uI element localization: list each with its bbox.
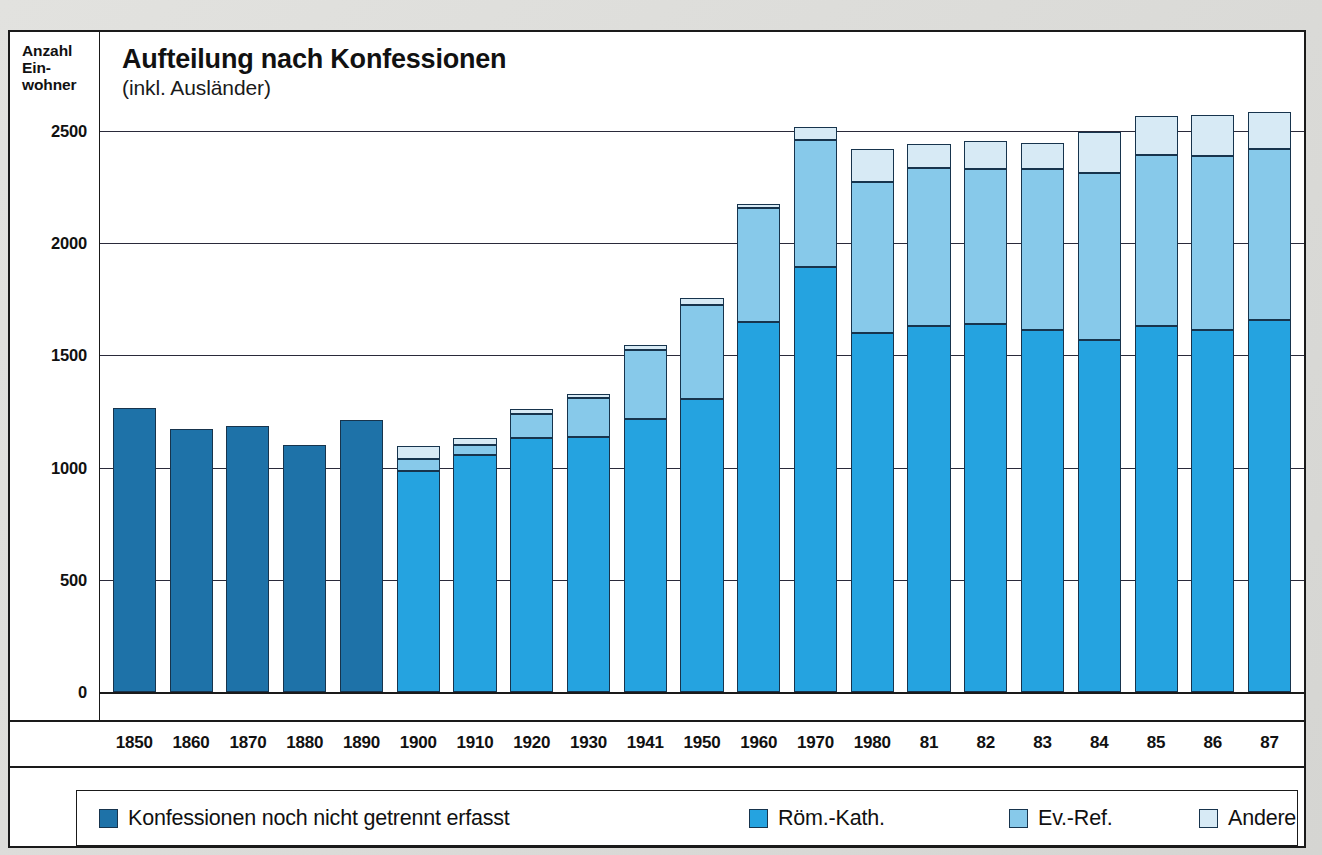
bar-84[interactable]: [1078, 132, 1121, 692]
bar-1870[interactable]: [226, 426, 269, 692]
x-tick-1850: 1850: [106, 733, 163, 753]
bar-segment-kath-86[interactable]: [1191, 330, 1234, 692]
bar-segment-andere-1920[interactable]: [510, 409, 553, 413]
x-tick-81: 81: [901, 733, 958, 753]
bar-segment-andere-1950[interactable]: [680, 298, 723, 305]
chart-title: Aufteilung nach Konfessionen: [122, 44, 1304, 75]
bar-1970[interactable]: [794, 127, 837, 692]
bar-segment-ev-81[interactable]: [907, 168, 950, 326]
bar-85[interactable]: [1135, 116, 1178, 692]
legend-swatch-ev-icon: [1009, 809, 1028, 828]
bar-segment-ev-1941[interactable]: [624, 350, 667, 420]
bar-segment-ev-1900[interactable]: [397, 459, 440, 471]
bar-segment-kath-1980[interactable]: [851, 333, 894, 692]
bar-segment-andere-1910[interactable]: [453, 438, 496, 445]
bar-segment-notsplit-1890[interactable]: [340, 420, 383, 692]
bar-segment-kath-82[interactable]: [964, 324, 1007, 692]
bar-segment-notsplit-1850[interactable]: [113, 408, 156, 692]
x-tick-1960: 1960: [730, 733, 787, 753]
x-tick-83: 83: [1014, 733, 1071, 753]
bar-segment-ev-1930[interactable]: [567, 398, 610, 437]
bar-segment-andere-81[interactable]: [907, 144, 950, 168]
bar-segment-kath-1910[interactable]: [453, 455, 496, 692]
bar-segment-ev-1950[interactable]: [680, 305, 723, 399]
bar-segment-andere-86[interactable]: [1191, 115, 1234, 155]
bar-segment-andere-87[interactable]: [1248, 112, 1291, 149]
bar-segment-notsplit-1880[interactable]: [283, 445, 326, 692]
bar-1900[interactable]: [397, 446, 440, 692]
x-tick-1941: 1941: [617, 733, 674, 753]
y-tick-0: 0: [78, 683, 87, 702]
bar-segment-ev-1970[interactable]: [794, 140, 837, 267]
bar-81[interactable]: [907, 144, 950, 692]
bar-segment-ev-87[interactable]: [1248, 149, 1291, 320]
bar-segment-andere-82[interactable]: [964, 141, 1007, 169]
bar-1960[interactable]: [737, 204, 780, 692]
bar-83[interactable]: [1021, 143, 1064, 692]
bar-segment-andere-84[interactable]: [1078, 132, 1121, 172]
bar-segment-andere-83[interactable]: [1021, 143, 1064, 169]
bar-1950[interactable]: [680, 298, 723, 692]
bar-group: [100, 120, 1304, 720]
bar-segment-andere-1960[interactable]: [737, 204, 780, 208]
bar-segment-kath-1930[interactable]: [567, 437, 610, 692]
bar-segment-andere-1970[interactable]: [794, 127, 837, 140]
legend-item-andere[interactable]: Andere: [1199, 806, 1296, 831]
bar-segment-kath-83[interactable]: [1021, 330, 1064, 692]
bar-1890[interactable]: [340, 420, 383, 692]
x-tick-1980: 1980: [844, 733, 901, 753]
bar-segment-ev-82[interactable]: [964, 169, 1007, 324]
bar-86[interactable]: [1191, 115, 1234, 692]
bar-1860[interactable]: [170, 429, 213, 692]
bar-1910[interactable]: [453, 438, 496, 692]
bar-1941[interactable]: [624, 345, 667, 692]
bar-segment-andere-1980[interactable]: [851, 149, 894, 182]
legend-item-kath[interactable]: Röm.-Kath.: [749, 806, 885, 831]
title-block: Aufteilung nach Konfessionen (inkl. Ausl…: [100, 32, 1304, 120]
bar-segment-kath-84[interactable]: [1078, 340, 1121, 692]
y-tick-2000: 2000: [51, 234, 87, 253]
bar-1850[interactable]: [113, 408, 156, 692]
bar-1880[interactable]: [283, 445, 326, 692]
legend-label-kath: Röm.-Kath.: [778, 806, 885, 831]
x-tick-84: 84: [1071, 733, 1128, 753]
bar-segment-andere-1930[interactable]: [567, 394, 610, 398]
bar-segment-ev-1920[interactable]: [510, 414, 553, 439]
y-tick-500: 500: [60, 570, 87, 589]
bar-segment-kath-1941[interactable]: [624, 419, 667, 692]
bar-82[interactable]: [964, 141, 1007, 692]
bar-segment-ev-86[interactable]: [1191, 156, 1234, 330]
legend-swatch-andere-icon: [1199, 809, 1218, 828]
bar-segment-kath-1920[interactable]: [510, 438, 553, 692]
y-axis-title: Anzahl Ein- wohner: [10, 32, 100, 120]
plot-area: 05001000150020002500: [10, 120, 1304, 720]
bar-segment-ev-1960[interactable]: [737, 208, 780, 321]
bar-segment-ev-85[interactable]: [1135, 155, 1178, 327]
chart-page: Anzahl Ein- wohner Aufteilung nach Konfe…: [0, 0, 1322, 855]
bar-segment-ev-1910[interactable]: [453, 445, 496, 455]
bar-segment-kath-1960[interactable]: [737, 322, 780, 692]
bar-1930[interactable]: [567, 394, 610, 692]
bar-segment-kath-87[interactable]: [1248, 320, 1291, 693]
bar-segment-kath-85[interactable]: [1135, 326, 1178, 692]
bar-segment-ev-84[interactable]: [1078, 173, 1121, 340]
bar-segment-andere-1941[interactable]: [624, 345, 667, 349]
bar-segment-kath-1900[interactable]: [397, 471, 440, 692]
bar-segment-notsplit-1860[interactable]: [170, 429, 213, 692]
bar-segment-notsplit-1870[interactable]: [226, 426, 269, 692]
bar-87[interactable]: [1248, 112, 1291, 692]
y-axis-title-line-2: Ein-: [22, 59, 93, 76]
bar-segment-ev-83[interactable]: [1021, 169, 1064, 329]
bar-segment-andere-85[interactable]: [1135, 116, 1178, 154]
bar-1980[interactable]: [851, 149, 894, 692]
legend-item-notsplit[interactable]: Konfessionen noch nicht getrennt erfasst: [99, 806, 510, 831]
bar-segment-kath-1950[interactable]: [680, 399, 723, 692]
legend-item-ev[interactable]: Ev.-Ref.: [1009, 806, 1112, 831]
bar-1920[interactable]: [510, 409, 553, 692]
bar-segment-ev-1980[interactable]: [851, 182, 894, 333]
bar-segment-andere-1900[interactable]: [397, 446, 440, 458]
legend-swatch-kath-icon: [749, 809, 768, 828]
legend-label-ev: Ev.-Ref.: [1038, 806, 1112, 831]
bar-segment-kath-81[interactable]: [907, 326, 950, 692]
bar-segment-kath-1970[interactable]: [794, 267, 837, 692]
